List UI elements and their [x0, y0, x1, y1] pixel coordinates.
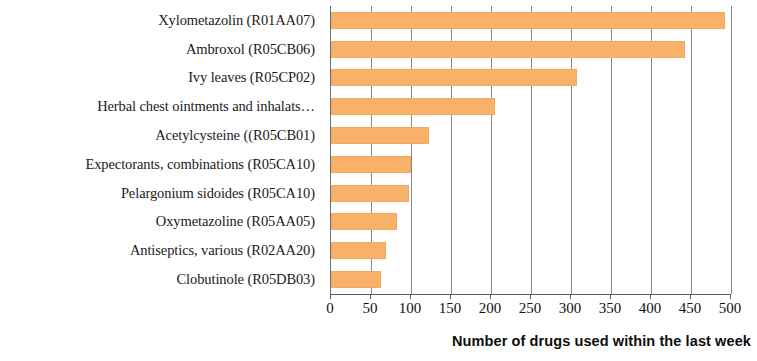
x-axis-title: Number of drugs used within the last wee… — [0, 333, 751, 349]
category-label: Herbal chest ointments and inhalats… — [0, 92, 322, 121]
category-label: Oxymetazoline (R05AA05) — [0, 208, 322, 237]
axis-tick-label: 500 — [719, 300, 742, 317]
category-label: Pelargonium sidoides (R05CA10) — [0, 179, 322, 208]
axis-tick-label: 300 — [559, 300, 582, 317]
category-label: Expectorants, combinations (R05CA10) — [0, 150, 322, 179]
axis-tick — [330, 294, 331, 299]
category-label: Xylometazolin (R01AA07) — [0, 6, 322, 35]
axis-tick — [370, 294, 371, 299]
axis-tick-label: 200 — [479, 300, 502, 317]
category-label: Antiseptics, various (R02AA20) — [0, 236, 322, 265]
bar — [331, 156, 411, 173]
bar-row — [331, 121, 731, 150]
axis-tick-label: 0 — [326, 300, 334, 317]
category-label: Acetylcysteine ((R05CB01) — [0, 121, 322, 150]
bar-row — [331, 236, 731, 265]
axis-tick — [730, 294, 731, 299]
axis-tick-label: 250 — [519, 300, 542, 317]
bar — [331, 41, 685, 58]
chart-figure: Xylometazolin (R01AA07)Ambroxol (R05CB06… — [0, 0, 757, 361]
bar-row — [331, 64, 731, 93]
axis-tick — [410, 294, 411, 299]
bar — [331, 242, 386, 259]
axis-tick-label: 150 — [439, 300, 462, 317]
bar — [331, 69, 577, 86]
bar-row — [331, 265, 731, 294]
axis-tick-label: 50 — [363, 300, 378, 317]
x-axis-tick-labels: 050100150200250300350400450500 — [330, 300, 730, 320]
axis-tick — [690, 294, 691, 299]
bar — [331, 98, 495, 115]
bar-row — [331, 35, 731, 64]
category-label: Ivy leaves (R05CP02) — [0, 64, 322, 93]
gridline — [731, 6, 732, 294]
plot-area — [330, 6, 731, 294]
axis-tick-label: 400 — [639, 300, 662, 317]
bar-row — [331, 208, 731, 237]
bar — [331, 12, 725, 29]
bar-row — [331, 6, 731, 35]
axis-tick — [490, 294, 491, 299]
axis-tick — [570, 294, 571, 299]
axis-tick — [610, 294, 611, 299]
category-label: Clobutinole (R05DB03) — [0, 265, 322, 294]
axis-tick — [650, 294, 651, 299]
axis-tick-label: 350 — [599, 300, 622, 317]
category-label: Ambroxol (R05CB06) — [0, 35, 322, 64]
axis-tick-label: 100 — [399, 300, 422, 317]
bar-row — [331, 179, 731, 208]
axis-tick — [450, 294, 451, 299]
bar-row — [331, 150, 731, 179]
category-axis: Xylometazolin (R01AA07)Ambroxol (R05CB06… — [0, 6, 322, 294]
bar — [331, 271, 381, 288]
axis-tick-label: 450 — [679, 300, 702, 317]
bar — [331, 127, 429, 144]
bar-row — [331, 92, 731, 121]
axis-tick — [530, 294, 531, 299]
bar — [331, 185, 409, 202]
bar-series — [331, 6, 731, 294]
bar — [331, 213, 397, 230]
